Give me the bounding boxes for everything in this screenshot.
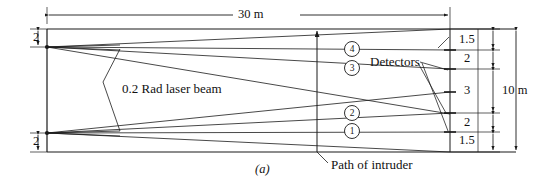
beam-marker-label-1: 1 [350,126,355,136]
seg-label-4: 2 [464,116,470,129]
beam-lower-c [47,113,450,133]
beam-lower-d [47,92,450,133]
laser-source-lower [45,131,49,135]
beam-marker-label-4: 4 [350,44,355,54]
diagram-canvas: 4 3 2 1 [0,0,536,184]
detectors-label: Detectors [370,55,420,68]
beam-marker-label-2: 2 [350,108,355,118]
intruder-path [317,31,328,163]
seg-label-1: 1.5 [459,33,475,46]
beam-marker-label-3: 3 [350,63,355,73]
leader-d [422,63,448,131]
beam-upper-a [47,29,450,47]
leader-up [103,49,120,82]
laser-label-leaders [103,49,120,131]
laser-source-upper [45,45,49,49]
leader-c [418,63,446,113]
dim-label-left-bottom: 2 [33,135,39,148]
beam-lower-b [47,132,450,133]
seg-label-5: 1.5 [459,134,475,147]
laser-beam-label: 0.2 Rad laser beam [122,82,222,95]
leader-a [438,37,449,48]
leader-down [103,82,120,131]
dim-label-left-top: 2 [33,31,39,44]
dim-label-height: 10 m [502,84,527,97]
intruder-leader [317,152,328,163]
beam-lower-f [47,133,120,136]
seg-label-3: 3 [464,84,470,97]
seg-label-2: 2 [464,52,470,65]
figure-caption: (a) [255,163,270,176]
beam-marker-group [345,42,360,139]
figure-container: 4 3 2 1 [0,0,536,184]
laser-beams [47,29,450,152]
right-segment-dims [450,29,500,152]
detectors-label-leaders [418,37,449,131]
beam-marker-labels: 4 3 2 1 [350,44,355,136]
dim-label-length: 30 m [238,8,263,21]
intruder-path-label: Path of intruder [331,158,413,171]
